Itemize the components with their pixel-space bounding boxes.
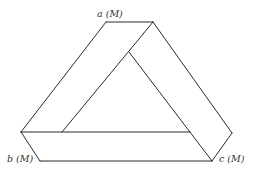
impossible-triangle-diagram: a (M) b (M) c (M): [0, 0, 256, 174]
outer-right-edge: [153, 22, 232, 133]
outer-left-edge: [21, 22, 106, 132]
label-b: b (M): [7, 153, 34, 164]
label-a: a (M): [97, 8, 123, 19]
label-c: c (M): [219, 153, 245, 164]
inner-left-band-edge: [62, 22, 153, 132]
inner-right-edge: [129, 52, 212, 161]
triangle-edges: [21, 22, 232, 161]
